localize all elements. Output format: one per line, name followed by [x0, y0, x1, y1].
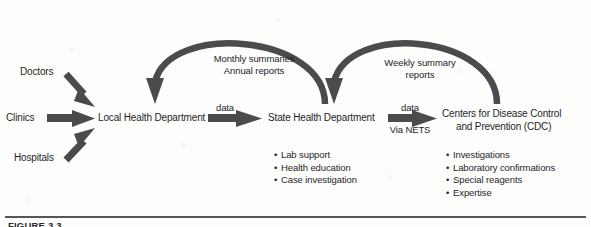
bullet-icon: • [274, 149, 281, 162]
service-list-item: •Special reagents [446, 174, 555, 187]
node-doctors: Doctors [20, 66, 53, 79]
service-list-item-label: Expertise [453, 187, 492, 198]
bullet-icon: • [274, 174, 281, 187]
service-list-item: •Lab support [274, 149, 357, 162]
bullet-icon: • [446, 187, 453, 200]
service-list-item: •Investigations [446, 149, 555, 162]
service-list-item-label: Investigations [453, 149, 510, 160]
arrow-doctors-to-lhd [66, 74, 95, 107]
node-cdc: Centers for Disease Control and Preventi… [442, 107, 561, 133]
bullet-icon: • [446, 149, 453, 162]
node-cdc-line-2: and Prevention (CDC) [442, 120, 561, 133]
service-list-item: •Case investigation [274, 174, 357, 187]
bullet-icon: • [446, 174, 453, 187]
edge-label-curve-2-line-1: Weekly summary [355, 57, 485, 69]
node-state-health-department: State Health Department [268, 112, 375, 125]
edge-label-curve-cdc-to-shd: Weekly summary reports [355, 57, 485, 80]
service-list-state-health-department: •Lab support•Health education•Case inves… [274, 149, 357, 187]
service-list-item-label: Health education [281, 162, 351, 173]
figure-caption: FIGURE 3.3 [8, 220, 62, 227]
node-clinics: Clinics [6, 112, 34, 125]
edge-label-curve-2-line-2: reports [355, 69, 485, 81]
node-local-health-department: Local Health Department [98, 112, 205, 125]
edge-label-data-lhd-to-shd: data [205, 102, 245, 114]
service-list-item: •Expertise [446, 187, 555, 200]
node-hospitals: Hospitals [14, 152, 54, 165]
bullet-icon: • [446, 162, 453, 175]
arrow-hospitals-to-lhd [66, 128, 95, 160]
figure-rule [5, 216, 586, 218]
arrow-clinics-to-lhd [47, 110, 95, 127]
service-list-item-label: Laboratory confirmations [453, 162, 555, 173]
service-list-item-label: Case investigation [281, 174, 357, 185]
edge-label-data-shd-to-cdc: data [390, 102, 430, 114]
edge-label-curve-shd-to-lhd: Monthly summaries Annual reports [180, 53, 328, 76]
figure-container: Doctors Clinics Hospitals Local Health D… [0, 0, 591, 227]
service-list-item-label: Special reagents [453, 174, 522, 185]
edge-label-curve-1-line-2: Annual reports [180, 65, 328, 77]
node-cdc-line-1: Centers for Disease Control [442, 108, 561, 119]
edge-label-curve-1-line-1: Monthly summaries [180, 53, 328, 65]
service-list-item-label: Lab support [281, 149, 330, 160]
service-list-item: •Laboratory confirmations [446, 162, 555, 175]
service-list-item: •Health education [274, 162, 357, 175]
bullet-icon: • [274, 162, 281, 175]
edge-label-via-nets: Via NETS [382, 124, 438, 136]
service-list-cdc: •Investigations•Laboratory confirmations… [446, 149, 555, 199]
